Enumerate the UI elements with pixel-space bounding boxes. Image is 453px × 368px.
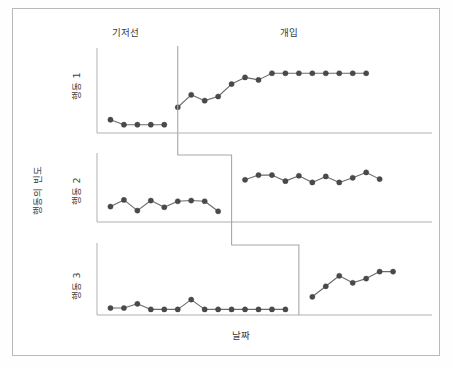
data-point (269, 71, 274, 76)
data-point (296, 71, 301, 76)
phase-label-baseline: 기저선 (112, 28, 140, 38)
data-point (216, 307, 221, 312)
data-point (323, 284, 328, 289)
data-point (135, 301, 140, 306)
data-point (162, 205, 167, 210)
panel-3-axes (97, 243, 432, 315)
data-point (121, 305, 126, 310)
panel-2 (97, 153, 432, 222)
data-point (269, 307, 274, 312)
panel-2-axes (97, 153, 432, 222)
data-point (337, 71, 342, 76)
phase-label-intervention: 개입 (280, 28, 298, 38)
data-point (148, 122, 153, 127)
data-point (296, 173, 301, 178)
data-point (337, 180, 342, 185)
data-point (269, 173, 274, 178)
data-point (256, 307, 261, 312)
data-point (135, 208, 140, 213)
x-axis-label: 날짜 (232, 331, 250, 341)
data-point (175, 199, 180, 204)
data-point (350, 175, 355, 180)
data-point (323, 71, 328, 76)
data-point (310, 294, 315, 299)
data-point (121, 122, 126, 127)
data-point (108, 305, 113, 310)
data-point (148, 307, 153, 312)
panel-label-behavior-3: 행동 3 (72, 272, 82, 300)
data-point (189, 297, 194, 302)
data-point (229, 81, 234, 86)
data-point (390, 269, 395, 274)
data-point (337, 273, 342, 278)
data-point (283, 71, 288, 76)
panel-label-behavior-2: 행동 2 (72, 177, 82, 205)
plot-panels-group (97, 48, 432, 315)
multiple-baseline-plot (0, 0, 453, 368)
data-point (242, 75, 247, 80)
data-point (242, 307, 247, 312)
data-point (323, 174, 328, 179)
data-point (364, 71, 369, 76)
data-point (202, 307, 207, 312)
data-point (364, 276, 369, 281)
data-point (350, 71, 355, 76)
data-point (350, 280, 355, 285)
figure-root: 기저선 개입 날짜 행동의 빈도 행동 1 행동 2 행동 3 (0, 0, 453, 368)
data-point (121, 197, 126, 202)
data-point (256, 77, 261, 82)
data-point (256, 173, 261, 178)
data-point (108, 117, 113, 122)
panel-3 (97, 243, 432, 315)
data-point (148, 198, 153, 203)
data-point (377, 269, 382, 274)
y-axis-label: 행동의 빈도 (33, 166, 43, 215)
data-point (310, 180, 315, 185)
data-point (216, 209, 221, 214)
data-point (202, 199, 207, 204)
data-point (189, 198, 194, 203)
data-point (377, 177, 382, 182)
panel-1-axes (97, 48, 432, 133)
data-point (283, 179, 288, 184)
data-point (310, 71, 315, 76)
data-point (242, 177, 247, 182)
data-point (162, 122, 167, 127)
data-point (175, 307, 180, 312)
panel-1 (97, 48, 432, 133)
data-point (229, 307, 234, 312)
phase-change-line (178, 46, 299, 315)
data-point (162, 307, 167, 312)
data-point (202, 98, 207, 103)
data-point (216, 94, 221, 99)
panel-label-behavior-1: 행동 1 (72, 72, 82, 100)
data-point (364, 170, 369, 175)
phase-change-step-line-group (178, 46, 299, 315)
data-point (108, 204, 113, 209)
data-point (189, 92, 194, 97)
data-point (135, 122, 140, 127)
data-point (283, 307, 288, 312)
